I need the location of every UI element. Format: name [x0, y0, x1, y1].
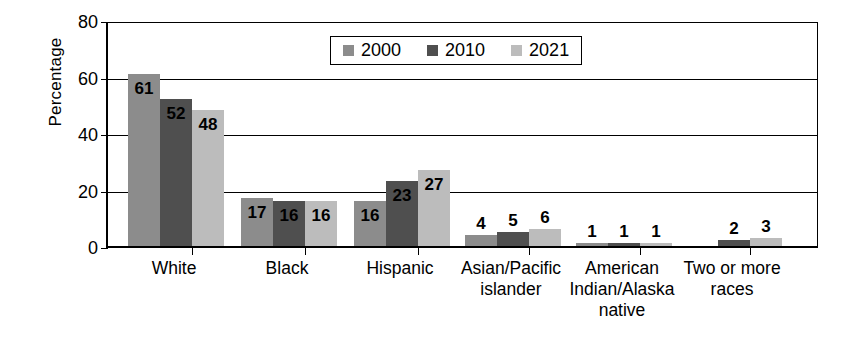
bar-value-label: 27 — [425, 175, 444, 195]
x-axis-tick — [750, 246, 751, 255]
bar-value-label: 16 — [361, 206, 380, 226]
x-axis-category-label: Hispanic — [366, 258, 433, 279]
bar-value-label: 1 — [587, 222, 596, 242]
y-axis-tick — [101, 248, 108, 249]
bar-value-label: 2 — [729, 219, 738, 239]
y-axis-tick-label: 80 — [78, 12, 98, 33]
bar-value-label: 23 — [393, 186, 412, 206]
bar-value-label: 1 — [651, 222, 660, 242]
y-axis-tick-label: 60 — [78, 68, 98, 89]
y-axis-tick — [101, 192, 108, 193]
legend-label-2021: 2021 — [529, 41, 569, 59]
y-axis-title: Percentage — [46, 0, 66, 182]
x-axis-tick — [529, 246, 530, 255]
bar-value-label: 16 — [312, 206, 331, 226]
legend-item-2000: 2000 — [343, 41, 401, 59]
bar-2010-5 — [718, 240, 750, 246]
bar-value-label: 17 — [248, 203, 267, 223]
y-axis-tick-label: 0 — [88, 238, 98, 259]
legend-item-2021: 2021 — [511, 41, 569, 59]
bar-value-label: 6 — [540, 208, 549, 228]
bar-2021-3 — [529, 229, 561, 246]
chart-legend: 2000 2010 2021 — [330, 36, 582, 65]
x-axis-category-label: American Indian/Alaska native — [569, 258, 674, 321]
gridline — [108, 79, 817, 80]
y-axis-tick — [101, 79, 108, 80]
bar-value-label: 52 — [167, 104, 186, 124]
bar-2010-4 — [608, 243, 640, 246]
legend-label-2010: 2010 — [445, 41, 485, 59]
y-axis-tick-label: 20 — [78, 181, 98, 202]
x-axis-tick — [305, 246, 306, 255]
bar-value-label: 5 — [508, 211, 517, 231]
x-axis-category-label: Black — [266, 258, 309, 279]
legend-swatch-2000-icon — [343, 45, 354, 56]
gridline — [108, 22, 817, 23]
bar-value-label: 4 — [476, 214, 485, 234]
bar-2021-5 — [750, 238, 782, 246]
bar-chart: Percentage 02040608061524817161616232745… — [0, 0, 858, 339]
bar-2021-4 — [640, 243, 672, 246]
bar-value-label: 61 — [135, 79, 154, 99]
bar-2000-0 — [128, 74, 160, 246]
x-axis-category-label: White — [152, 258, 197, 279]
legend-label-2000: 2000 — [361, 41, 401, 59]
bar-value-label: 48 — [199, 115, 218, 135]
y-axis-tick-label: 40 — [78, 125, 98, 146]
legend-item-2010: 2010 — [427, 41, 485, 59]
bar-value-label: 1 — [619, 222, 628, 242]
x-axis-tick — [418, 246, 419, 255]
x-axis-category-label: Two or more races — [683, 258, 780, 300]
x-axis-category-label: Asian/Pacific islander — [461, 258, 561, 300]
bar-value-label: 16 — [280, 206, 299, 226]
bar-2010-3 — [497, 232, 529, 246]
bar-2000-4 — [576, 243, 608, 246]
x-axis-tick — [640, 246, 641, 255]
bar-2000-3 — [465, 235, 497, 246]
y-axis-tick — [101, 135, 108, 136]
y-axis-tick — [101, 22, 108, 23]
legend-swatch-2010-icon — [427, 45, 438, 56]
legend-swatch-2021-icon — [511, 45, 522, 56]
bar-value-label: 3 — [761, 217, 770, 237]
x-axis-tick — [192, 246, 193, 255]
